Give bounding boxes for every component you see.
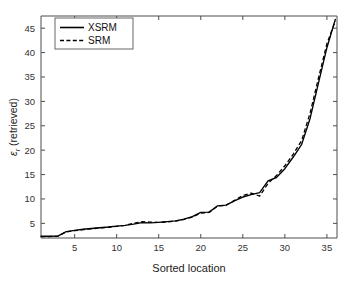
x-tick-label: 30 — [280, 242, 291, 253]
x-tick-label: 15 — [153, 242, 164, 253]
y-tick-label: 40 — [24, 47, 35, 58]
chart-plot: 51015202530354045 5101520253035 Sorted l… — [0, 0, 358, 289]
y-tick-label: 10 — [24, 193, 35, 204]
legend[interactable]: XSRM SRM — [55, 18, 133, 49]
y-tick-label: 45 — [24, 23, 35, 34]
y-tick-label: 30 — [24, 96, 35, 107]
x-tick-label: 5 — [72, 242, 77, 253]
y-tick-label: 15 — [24, 169, 35, 180]
y-tick-label: 20 — [24, 145, 35, 156]
figure-canvas: 51015202530354045 5101520253035 Sorted l… — [0, 0, 358, 289]
x-tick-label: 35 — [322, 242, 333, 253]
y-tick-label: 35 — [24, 71, 35, 82]
x-axis-label: Sorted location — [152, 262, 225, 274]
y-tick-label: 5 — [30, 218, 35, 229]
legend-label: SRM — [88, 35, 110, 46]
x-tick-label: 20 — [195, 242, 206, 253]
y-axis-label: εr (retrieved) — [7, 98, 22, 156]
x-tick-label: 10 — [111, 242, 122, 253]
x-tick-label: 25 — [238, 242, 249, 253]
svg-text:εr (retrieved): εr (retrieved) — [7, 98, 22, 156]
y-tick-label: 25 — [24, 120, 35, 131]
legend-label: XSRM — [88, 22, 117, 33]
